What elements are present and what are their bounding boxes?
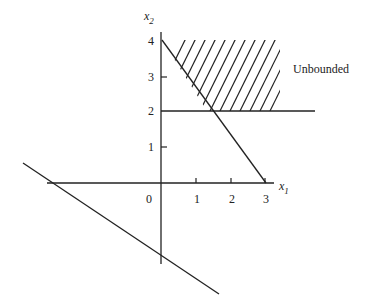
y-tick-4: 4 [148,34,154,48]
y-tick-2: 2 [148,104,154,118]
lp-feasible-region-diagram: x2 x1 0 1 2 3 1 2 3 4 Unbounded [0,0,369,307]
feasible-region-hatching [150,30,310,111]
x2-axis-label: x2 [143,9,154,26]
x-tick-0: 0 [146,192,152,206]
y-tick-3: 3 [148,70,154,84]
x-tick-1: 1 [194,192,200,206]
unbounded-annotation: Unbounded [293,62,349,76]
x-tick-2: 2 [229,192,235,206]
y-tick-1: 1 [148,140,154,154]
x-tick-3: 3 [263,192,269,206]
x1-axis-label: x1 [278,179,289,196]
